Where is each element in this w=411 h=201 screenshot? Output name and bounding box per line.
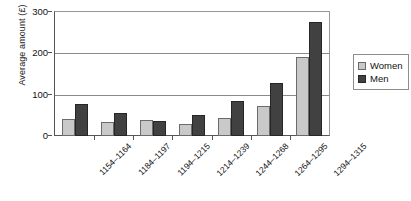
legend-label-women: Women [370,60,403,71]
bar-men [153,121,166,136]
bar-women [62,119,75,136]
chart-legend: Women Men [353,54,409,90]
bar-men [231,101,244,136]
y-tick-label: 0 [22,130,48,141]
x-axis-label: 1194–1215 [175,141,212,178]
men-swatch-icon [358,75,366,83]
x-axis-label: 1184–1197 [136,141,172,177]
bar-men [270,83,283,136]
y-tick-label: 200 [22,47,48,58]
x-axis-label: 1294–1315 [332,141,369,178]
bar-group [94,12,133,136]
bar-group [133,12,172,136]
x-axis-label: 1154–1164 [97,141,133,177]
bar-men [75,104,88,136]
women-swatch-icon [358,62,366,70]
x-tick-mark [94,136,95,140]
x-axis-label: 1214–1239 [214,141,251,178]
bar-chart: Average amount (£) 0100200300 1154–11641… [0,0,411,201]
bar-women [101,122,114,136]
x-axis-label: 1244–1268 [254,141,291,178]
legend-item-women: Women [358,59,403,72]
bar-women [179,124,192,136]
x-tick-mark [251,136,252,140]
bar-women [257,106,270,136]
y-tick-mark [48,52,52,53]
bar-women [218,118,231,136]
legend-label-men: Men [370,73,388,84]
bar-women [140,120,153,136]
bar-group [290,12,329,136]
y-tick-label: 100 [22,88,48,99]
y-axis-ticks: 0100200300 [18,11,48,136]
bars-layer [55,12,329,136]
y-tick-mark [48,11,52,12]
y-tick-label: 300 [22,6,48,17]
bar-women [296,57,309,136]
bar-group [212,12,251,136]
legend-item-men: Men [358,72,403,85]
bar-group [251,12,290,136]
x-axis-label: 1264–1295 [293,141,330,178]
bar-men [309,22,322,136]
x-tick-mark [290,136,291,140]
y-tick-mark [48,94,52,95]
x-tick-mark [133,136,134,140]
x-tick-mark [212,136,213,140]
y-tick-mark [48,135,52,136]
bar-group [55,12,94,136]
x-tick-mark [172,136,173,140]
x-axis-labels: 1154–11641184–11971194–12151214–12391244… [55,141,345,201]
bar-group [172,12,211,136]
bar-men [114,113,127,136]
bar-men [192,115,205,136]
